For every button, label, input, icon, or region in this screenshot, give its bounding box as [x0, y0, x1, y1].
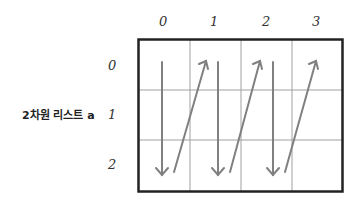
- grid-diagram: [0, 0, 359, 206]
- traversal-arrows: [156, 61, 318, 175]
